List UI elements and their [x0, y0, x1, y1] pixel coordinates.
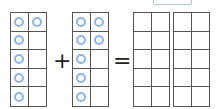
ten-frame-cell[interactable]: [91, 50, 109, 69]
ten-frame-cell[interactable]: [174, 69, 192, 88]
ten-frame-cell[interactable]: [73, 87, 91, 106]
ten-frame-sum-1: [133, 12, 170, 107]
ten-frame-cell[interactable]: [152, 32, 170, 51]
ten-frame-cell[interactable]: [29, 69, 47, 88]
ten-frame-cell[interactable]: [192, 69, 210, 88]
counter-circle-icon: [14, 35, 24, 45]
answer-input-box[interactable]: [153, 0, 192, 5]
ten-frame-cell[interactable]: [73, 13, 91, 32]
counter-circle-icon: [94, 17, 104, 27]
ten-frame-cell[interactable]: [134, 69, 152, 88]
ten-frame-cell[interactable]: [152, 87, 170, 106]
ten-frame-cell[interactable]: [11, 69, 29, 88]
ten-frame-cell[interactable]: [29, 32, 47, 51]
ten-frame-cell[interactable]: [91, 69, 109, 88]
ten-frame-cell[interactable]: [134, 32, 152, 51]
counter-circle-icon: [76, 73, 86, 83]
ten-frame-cell[interactable]: [152, 69, 170, 88]
ten-frame-cell[interactable]: [73, 32, 91, 51]
ten-frame-cell[interactable]: [174, 50, 192, 69]
ten-frame-cell[interactable]: [91, 13, 109, 32]
ten-frame-addend-1: [10, 12, 47, 107]
counter-circle-icon: [94, 35, 104, 45]
ten-frame-cell[interactable]: [134, 87, 152, 106]
counter-circle-icon: [14, 73, 24, 83]
ten-frame-cell[interactable]: [29, 50, 47, 69]
counter-circle-icon: [14, 54, 24, 64]
ten-frame-cell[interactable]: [174, 13, 192, 32]
ten-frame-cell[interactable]: [134, 50, 152, 69]
ten-frame-cell[interactable]: [192, 87, 210, 106]
ten-frame-cell[interactable]: [29, 13, 47, 32]
ten-frame-cell[interactable]: [152, 13, 170, 32]
ten-frame-sum-2: [173, 12, 210, 107]
ten-frame-addend-2: [72, 12, 109, 107]
counter-circle-icon: [14, 17, 24, 27]
ten-frame-cell[interactable]: [29, 87, 47, 106]
ten-frame-cell[interactable]: [11, 50, 29, 69]
ten-frame-cell[interactable]: [174, 32, 192, 51]
ten-frame-cell[interactable]: [174, 87, 192, 106]
ten-frame-cell[interactable]: [11, 13, 29, 32]
ten-frame-cell[interactable]: [192, 13, 210, 32]
equals-sign: =: [113, 50, 131, 72]
ten-frame-cell[interactable]: [152, 50, 170, 69]
ten-frame-cell[interactable]: [11, 32, 29, 51]
ten-frame-cell[interactable]: [192, 50, 210, 69]
ten-frame-cell[interactable]: [91, 87, 109, 106]
counter-circle-icon: [76, 92, 86, 102]
counter-circle-icon: [76, 35, 86, 45]
counter-circle-icon: [14, 92, 24, 102]
counter-circle-icon: [76, 17, 86, 27]
ten-frame-cell[interactable]: [73, 69, 91, 88]
ten-frame-cell[interactable]: [192, 32, 210, 51]
ten-frame-cell[interactable]: [73, 50, 91, 69]
ten-frame-cell[interactable]: [11, 87, 29, 106]
counter-circle-icon: [76, 54, 86, 64]
ten-frame-cell[interactable]: [134, 13, 152, 32]
counter-circle-icon: [32, 17, 42, 27]
ten-frame-cell[interactable]: [91, 32, 109, 51]
plus-sign: +: [53, 50, 71, 72]
